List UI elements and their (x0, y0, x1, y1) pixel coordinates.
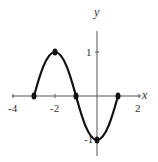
x-tick-label-neg2: -2 (50, 102, 59, 114)
x-tick-label-neg4: -4 (8, 102, 18, 114)
x-tick-label-2: 2 (135, 102, 141, 114)
function-graph: -4 -2 2 1 -1 x y (0, 0, 158, 162)
point-0-neg1 (95, 137, 100, 144)
y-tick-label-neg1: -1 (84, 133, 93, 145)
point-neg3-0 (32, 93, 37, 100)
y-tick-label-1: 1 (86, 46, 92, 58)
x-axis-label: x (141, 88, 148, 102)
point-1-0 (116, 93, 121, 100)
point-neg1-0 (74, 93, 79, 100)
point-neg2-1 (53, 49, 58, 56)
y-axis-label: y (93, 5, 100, 19)
